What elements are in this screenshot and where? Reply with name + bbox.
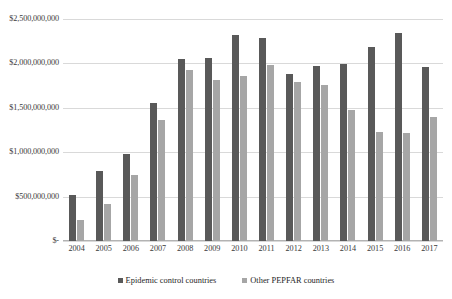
x-axis-tick-label: 2014 xyxy=(334,243,361,257)
bar xyxy=(232,35,239,241)
bar-group xyxy=(199,19,226,241)
legend-item[interactable]: Epidemic control countries xyxy=(118,276,217,285)
bar xyxy=(205,58,212,241)
bar-chart: $2,500,000,000$2,000,000,000$1,500,000,0… xyxy=(0,0,452,299)
bar-group xyxy=(226,19,253,241)
bar xyxy=(430,117,437,241)
x-axis-tick-label: 2013 xyxy=(307,243,334,257)
y-axis-tick-label: $- xyxy=(0,237,59,245)
bar-groups xyxy=(63,19,443,241)
x-axis-tick-label: 2008 xyxy=(172,243,199,257)
bar xyxy=(294,82,301,241)
legend-label: Other PEPFAR countries xyxy=(250,276,334,285)
legend-swatch-icon xyxy=(242,278,247,283)
x-axis-tick-label: 2009 xyxy=(199,243,226,257)
gridline xyxy=(63,241,443,242)
x-axis-tick-label: 2015 xyxy=(362,243,389,257)
x-axis-tick-label: 2012 xyxy=(280,243,307,257)
y-axis-labels: $2,500,000,000$2,000,000,000$1,500,000,0… xyxy=(0,19,59,241)
bar xyxy=(131,175,138,241)
y-axis-tick-label: $2,000,000,000 xyxy=(0,59,59,67)
bar xyxy=(348,110,355,241)
bar xyxy=(286,74,293,241)
bar-group xyxy=(362,19,389,241)
bar-group xyxy=(172,19,199,241)
y-axis-tick-label: $1,000,000,000 xyxy=(0,148,59,156)
bar xyxy=(158,120,165,241)
bar xyxy=(213,80,220,241)
bar xyxy=(368,47,375,241)
y-axis-tick-label: $500,000,000 xyxy=(0,193,59,201)
x-axis-tick-label: 2004 xyxy=(63,243,90,257)
y-axis-tick-label: $1,500,000,000 xyxy=(0,104,59,112)
bar xyxy=(104,204,111,241)
y-axis-tick-label: $2,500,000,000 xyxy=(0,15,59,23)
bar xyxy=(422,67,429,241)
bar xyxy=(96,171,103,241)
bar-group xyxy=(90,19,117,241)
x-axis-tick-label: 2005 xyxy=(90,243,117,257)
bar xyxy=(321,85,328,241)
x-axis-tick-label: 2006 xyxy=(117,243,144,257)
x-axis-tick-label: 2017 xyxy=(416,243,443,257)
x-axis-tick-label: 2016 xyxy=(389,243,416,257)
x-axis-tick-label: 2011 xyxy=(253,243,280,257)
bar xyxy=(69,195,76,241)
bar-group xyxy=(63,19,90,241)
bar xyxy=(313,66,320,241)
bar-group xyxy=(117,19,144,241)
bar xyxy=(240,76,247,241)
bar-group xyxy=(280,19,307,241)
bar-group xyxy=(389,19,416,241)
bar xyxy=(259,38,266,241)
chart-legend: Epidemic control countriesOther PEPFAR c… xyxy=(0,276,452,285)
bar-group xyxy=(253,19,280,241)
bar xyxy=(395,33,402,241)
legend-item[interactable]: Other PEPFAR countries xyxy=(242,276,334,285)
bar xyxy=(123,154,130,241)
x-axis-tick-label: 2010 xyxy=(226,243,253,257)
x-axis-labels: 2004200520062007200820092010201120122013… xyxy=(63,243,443,257)
bar-group xyxy=(416,19,443,241)
bar xyxy=(267,65,274,241)
x-axis-tick-label: 2007 xyxy=(144,243,171,257)
bar xyxy=(150,103,157,241)
bar xyxy=(403,133,410,241)
bar-group xyxy=(334,19,361,241)
legend-label: Epidemic control countries xyxy=(126,276,217,285)
legend-swatch-icon xyxy=(118,278,123,283)
bar xyxy=(77,220,84,241)
plot-area xyxy=(63,19,443,241)
bar xyxy=(340,64,347,241)
bar xyxy=(178,59,185,241)
bar xyxy=(376,132,383,241)
bar-group xyxy=(307,19,334,241)
bar xyxy=(186,70,193,241)
bar-group xyxy=(144,19,171,241)
